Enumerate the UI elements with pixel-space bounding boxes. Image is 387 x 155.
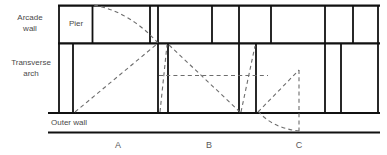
transverse-arch-label-line2: arch bbox=[23, 69, 39, 78]
bay-letter-c: C bbox=[296, 140, 303, 150]
bay-letter-a: A bbox=[115, 140, 121, 150]
arc-top-left-dashed bbox=[94, 5, 158, 43]
transverse-arch-label-line1: Transverse bbox=[11, 58, 51, 67]
pier-label: Pier bbox=[69, 19, 84, 28]
architectural-diagram: Arcade wall Pier Transverse arch Outer w… bbox=[0, 0, 387, 155]
diagonal-short-rise-dashed bbox=[160, 45, 167, 112]
bay-letter-b: B bbox=[206, 140, 212, 150]
short-rise-right-dashed bbox=[241, 46, 255, 112]
text-labels: Arcade wall Pier Transverse arch Outer w… bbox=[11, 13, 87, 127]
arcade-wall-band bbox=[58, 5, 380, 44]
diagonal-fall-right-dashed bbox=[169, 45, 240, 112]
triangle-hypotenuse-dashed bbox=[258, 70, 299, 112]
diagram-page: Arcade wall Pier Transverse arch Outer w… bbox=[0, 0, 387, 155]
transverse-arch-band bbox=[48, 44, 380, 113]
diagonal-rise-left-dashed bbox=[75, 44, 157, 112]
outer-wall-label: Outer wall bbox=[51, 118, 87, 127]
arcade-wall-label-line2: wall bbox=[22, 24, 37, 33]
arcade-wall-label-line1: Arcade bbox=[17, 13, 43, 22]
bay-letters: A B C bbox=[115, 140, 303, 150]
